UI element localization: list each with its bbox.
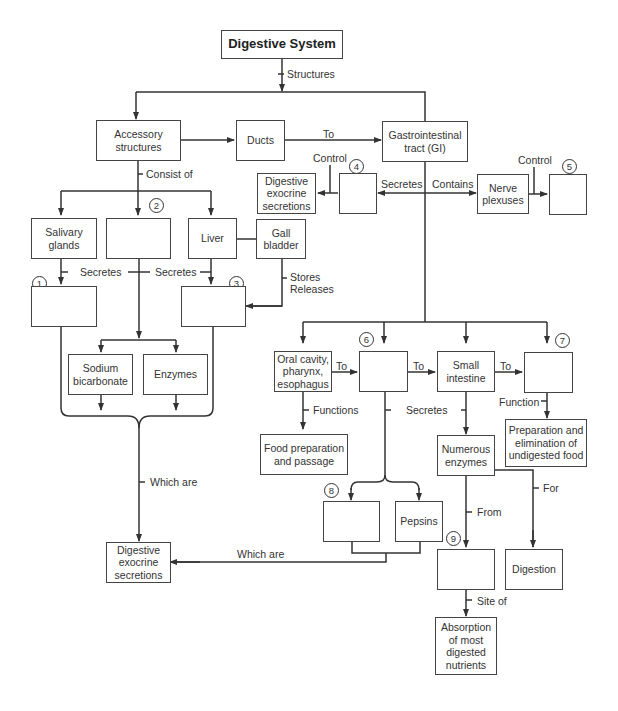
blank-number-9: 9 — [446, 531, 461, 546]
label-secretes-stomach: Secretes — [406, 404, 447, 416]
label-to-small: To — [500, 360, 511, 372]
box-gastrointestinal-tract: Gastrointestinal tract (GI) — [382, 121, 468, 162]
label-function-7: Function — [499, 396, 539, 408]
blank-number-2: 2 — [149, 198, 164, 213]
box-food-preparation-and-passage: Food preparation and passage — [260, 434, 348, 475]
label-secretes-gi: Secretes — [381, 178, 422, 190]
box-absorption-of-nutrients: Absorption of most digested nutrients — [435, 617, 497, 675]
label-consist-of: Consist of — [146, 168, 193, 180]
box-pepsins: Pepsins — [395, 501, 443, 542]
blank-number-5: 5 — [562, 159, 577, 174]
box-digestion: Digestion — [505, 549, 563, 590]
blank-box-6[interactable] — [359, 351, 408, 392]
label-control-4: Control — [313, 152, 347, 164]
blank-box-2[interactable] — [106, 218, 171, 259]
label-which-are-left: Which are — [150, 476, 197, 488]
blank-number-4: 4 — [349, 159, 364, 174]
box-ducts: Ducts — [236, 120, 285, 161]
label-functions: Functions — [313, 404, 359, 416]
box-nerve-plexuses: Nerve plexuses — [477, 174, 529, 214]
blank-box-9[interactable] — [437, 549, 495, 590]
box-oral-cavity-pharynx-esophagus: Oral cavity, pharynx, esophagus — [274, 351, 332, 392]
label-to-gi: To — [323, 128, 334, 140]
blank-box-5[interactable] — [549, 174, 587, 215]
title-box: Digestive System — [221, 30, 343, 59]
blank-number-6: 6 — [359, 332, 374, 347]
box-small-intestine: Small intestine — [437, 351, 495, 392]
blank-box-3[interactable] — [181, 286, 246, 327]
box-salivary-glands: Salivary glands — [31, 218, 97, 259]
box-numerous-enzymes: Numerous enzymes — [437, 435, 495, 476]
label-site-of: Site of — [477, 595, 507, 607]
label-secretes-1: Secretes — [80, 266, 121, 278]
box-accessory-structures: Accessory structures — [96, 120, 181, 161]
box-digestive-exocrine-secretions-bottom: Digestive exocrine secretions — [106, 542, 171, 583]
label-to-6: To — [413, 360, 424, 372]
label-from: From — [477, 506, 502, 518]
label-contains: Contains — [432, 178, 473, 190]
box-liver: Liver — [188, 218, 237, 259]
box-gall-bladder: Gall bladder — [256, 219, 306, 259]
concept-map: Digestive System Structures Accessory st… — [0, 0, 618, 711]
blank-box-8[interactable] — [323, 501, 380, 542]
label-control-5: Control — [518, 154, 552, 166]
blank-box-1[interactable] — [31, 286, 97, 327]
label-secretes-2: Secretes — [155, 266, 196, 278]
box-preparation-and-elimination: Preparation and elimination of undigeste… — [505, 419, 587, 467]
label-which-are-bottom: Which are — [237, 548, 284, 560]
blank-number-8: 8 — [324, 483, 339, 498]
box-enzymes: Enzymes — [143, 354, 208, 395]
label-to-oral: To — [336, 360, 347, 372]
label-structures: Structures — [287, 68, 335, 80]
blank-number-7: 7 — [555, 333, 570, 348]
box-digestive-exocrine-secretions-top: Digestive exocrine secretions — [257, 173, 316, 214]
blank-box-7[interactable] — [524, 352, 573, 393]
label-for: For — [543, 482, 559, 494]
blank-box-4[interactable] — [339, 173, 377, 214]
box-sodium-bicarbonate: Sodium bicarbonate — [68, 354, 133, 395]
label-stores-releases: Stores Releases — [290, 271, 334, 295]
